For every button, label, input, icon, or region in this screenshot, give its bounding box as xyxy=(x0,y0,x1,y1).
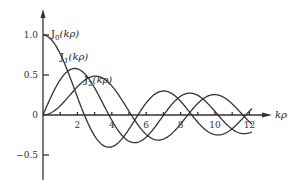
y-tick-label: 0 xyxy=(32,110,38,120)
curve-label-j2: J2(kρ) xyxy=(83,74,112,88)
y-tick-label: −0.5 xyxy=(16,150,38,160)
y-tick-label: 1.0 xyxy=(24,30,39,40)
bessel-chart: 24681012 1.00.50−0.5 kρ J0(kρ)J1(kρ)J2(k… xyxy=(0,0,301,192)
curve-j1 xyxy=(43,68,252,142)
x-axis-arrow-icon xyxy=(262,113,272,118)
y-tick-label: 0.5 xyxy=(24,70,39,80)
y-ticks: 1.00.50−0.5 xyxy=(16,30,49,160)
curve-labels: J0(kρ)J1(kρ)J2(kρ) xyxy=(50,28,112,88)
curve-j2 xyxy=(43,76,252,140)
x-tick-label: 6 xyxy=(143,120,149,130)
curve-label-j1: J1(kρ) xyxy=(59,51,88,65)
y-axis-arrow-icon xyxy=(41,9,46,18)
x-axis-label: kρ xyxy=(275,109,287,120)
x-tick-label: 2 xyxy=(75,120,81,130)
x-tick-label: 10 xyxy=(209,120,221,130)
curve-label-j0: J0(kρ) xyxy=(50,28,79,42)
